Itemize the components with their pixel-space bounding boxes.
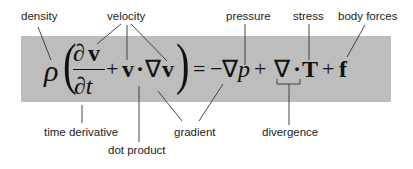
pressure-symbol: p bbox=[238, 57, 250, 81]
body-forces-leader bbox=[347, 25, 365, 57]
equals-symbol: = bbox=[193, 58, 205, 80]
label-pressure: pressure bbox=[226, 11, 271, 23]
minus-symbol: − bbox=[210, 58, 222, 80]
velocity-leader-1 bbox=[97, 24, 121, 44]
label-density: density bbox=[21, 11, 57, 23]
label-velocity: velocity bbox=[107, 11, 145, 23]
partial-symbol-num: ∂ bbox=[73, 41, 85, 65]
partial-t-symbol: ∂t bbox=[74, 74, 93, 98]
label-gradient: gradient bbox=[174, 127, 216, 139]
momentum-equation-diagram: ρ ( ∂ v ∂t + v · ∇ v ) = − ∇ p + ∇ · T +… bbox=[0, 0, 413, 169]
velocity-symbol-2: v bbox=[162, 57, 174, 81]
paren-close: ) bbox=[176, 35, 190, 93]
nabla-symbol-3: ∇ bbox=[274, 57, 290, 81]
nabla-symbol-1: ∇ bbox=[145, 57, 161, 81]
label-stress: stress bbox=[293, 11, 324, 23]
rho-symbol: ρ bbox=[44, 56, 58, 86]
stress-tensor-symbol: T bbox=[302, 57, 318, 81]
label-time-derivative: time derivative bbox=[44, 127, 118, 139]
body-force-symbol: f bbox=[339, 57, 347, 81]
velocity-symbol-1: v bbox=[122, 57, 134, 81]
nabla-symbol-2: ∇ bbox=[222, 57, 238, 81]
fraction-bar bbox=[73, 69, 105, 70]
velocity-symbol-num: v bbox=[88, 41, 100, 65]
label-body-forces: body forces bbox=[338, 11, 397, 23]
dot-product-symbol: · bbox=[136, 57, 144, 81]
plus-symbol-3: + bbox=[322, 58, 334, 80]
gradient-leader-2 bbox=[199, 84, 223, 121]
label-dot-product: dot product bbox=[108, 145, 166, 157]
plus-symbol-2: + bbox=[254, 58, 266, 80]
label-divergence: divergence bbox=[262, 127, 318, 139]
leader-lines bbox=[0, 0, 413, 169]
plus-symbol-1: + bbox=[106, 58, 118, 80]
divergence-dot-symbol: · bbox=[293, 57, 301, 81]
